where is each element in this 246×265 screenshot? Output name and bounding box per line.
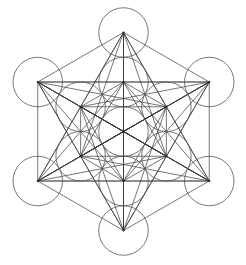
node-dot [122, 130, 124, 132]
metatrons-cube-diagram [0, 0, 246, 265]
node-dot [122, 31, 124, 33]
connection-line [124, 181, 210, 231]
node-dot [208, 81, 210, 83]
node-dot [80, 155, 82, 157]
node-dot [80, 106, 82, 108]
node-dot [208, 180, 210, 182]
node-dot [165, 106, 167, 108]
connection-line [38, 181, 124, 231]
node-dot [122, 229, 124, 231]
node-dot [37, 81, 39, 83]
connection-line [38, 33, 124, 83]
node-dot [122, 180, 124, 182]
node-dot [37, 180, 39, 182]
node-dot [122, 81, 124, 83]
cube-svg [0, 0, 246, 265]
node-dot [165, 155, 167, 157]
connection-line [124, 33, 210, 83]
